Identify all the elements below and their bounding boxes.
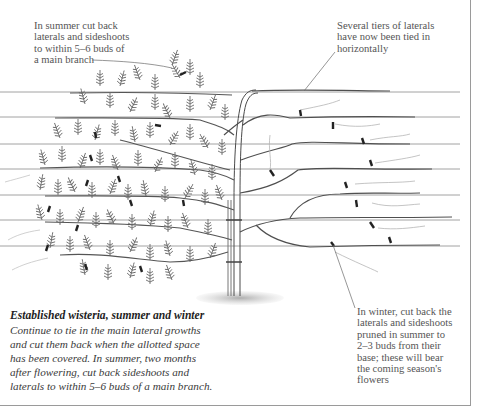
annotation-line: In summer cut back [34,20,129,31]
caption-line: has been covered. In summer, two months [10,351,250,365]
annotation-winter-pruning: In winter, cut back the laterals and sid… [357,306,452,386]
annotation-line: In winter, cut back the [357,306,452,317]
caption-line: and cut them back when the allotted spac… [10,337,250,351]
annotation-line: a main branch [34,54,129,65]
annotation-line: flowers [357,374,452,385]
figure-caption: Established wisteria, summer and winter … [10,309,250,393]
faint-left-shoots [5,175,48,270]
annotation-line: pruned in summer to [357,329,452,340]
annotation-line: Several tiers of laterals [337,20,434,31]
annotation-tiers: Several tiers of laterals have now been … [337,20,434,54]
annotation-line: 2–3 buds from their [357,340,452,351]
illustration-page: In summer cut back laterals and sideshoo… [0,0,488,412]
annotation-line: laterals and sideshoots [34,31,129,42]
page-border-right [470,0,471,406]
page-border-bottom [0,405,471,406]
annotation-line: the coming season's [357,363,452,374]
foliage [34,49,229,284]
annotation-summer-pruning: In summer cut back laterals and sideshoo… [34,20,129,66]
annotation-line: laterals and sideshoots [357,317,452,328]
caption-line: Continue to tie in the main lateral grow… [10,323,250,337]
annotation-line: horizontally [337,43,434,54]
annotation-line: to within 5–6 buds of [34,43,129,54]
caption-line: laterals to within 5–6 buds of a main br… [10,379,250,393]
caption-line: after flowering, cut back sideshoots and [10,365,250,379]
annotation-line: base; these will bear [357,352,452,363]
annotation-line: have now been tied in [337,31,434,42]
pruned-laterals [224,90,452,247]
leafy-branches [40,92,234,262]
wire-ties [270,110,391,246]
caption-title: Established wisteria, summer and winter [10,309,250,323]
caption-body: Continue to tie in the main lateral grow… [10,323,250,393]
